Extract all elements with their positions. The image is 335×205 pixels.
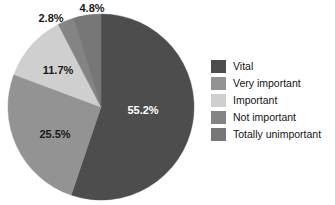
pie-slice-data-label: 25.5% <box>39 128 70 140</box>
legend-item[interactable]: Totally unimportant <box>211 127 335 142</box>
chart-legend: VitalVery importantImportantNot importan… <box>211 59 335 142</box>
legend-item[interactable]: Very important <box>211 76 335 91</box>
pie-slice-data-label: 11.7% <box>43 64 74 76</box>
legend-color-swatch <box>211 77 226 90</box>
pie-slice-data-label: 55.2% <box>127 104 158 116</box>
legend-item-label: Important <box>233 94 277 107</box>
pie-slice-data-label: 2.8% <box>38 12 63 24</box>
pie-slice-group <box>8 14 194 200</box>
legend-item-label: Totally unimportant <box>233 128 321 141</box>
legend-item-label: Vital <box>233 60 253 73</box>
pie-slice-data-label: 4.8% <box>79 2 104 14</box>
legend-color-swatch <box>211 60 226 73</box>
legend-color-swatch <box>211 94 226 107</box>
legend-item[interactable]: Vital <box>211 59 335 74</box>
legend-item[interactable]: Important <box>211 93 335 108</box>
legend-color-swatch <box>211 111 226 124</box>
legend-item[interactable]: Not important <box>211 110 335 125</box>
legend-item-label: Very important <box>233 77 301 90</box>
legend-color-swatch <box>211 128 226 141</box>
legend-item-label: Not important <box>233 111 296 124</box>
pie-chart-figure: 55.2%25.5%11.7%2.8%4.8% VitalVery import… <box>0 0 335 205</box>
